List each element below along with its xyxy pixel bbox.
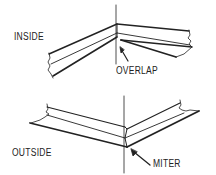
- miter-arrow: [131, 149, 150, 165]
- inside-left-flange-bottom-edge: [53, 37, 117, 76]
- inside-right-flange-top-edge: [117, 24, 189, 31]
- miter-callout-label: MITER: [153, 159, 181, 169]
- outside-right-flange-bottom-edge: [127, 111, 199, 147]
- overlap-callout-label: OVERLAP: [116, 66, 158, 76]
- outside-label: OUTSIDE: [12, 148, 52, 158]
- outside-left-flange-bottom-edge: [30, 123, 127, 147]
- outside-left-flange-top-edge: [47, 107, 125, 127]
- inside-label: INSIDE: [14, 32, 44, 42]
- outside-left-break-mark: [31, 104, 49, 123]
- outside-left-flange-mid-edge: [47, 115, 125, 138]
- inside-left-break-mark: [48, 53, 53, 78]
- overlap-arrow: [120, 47, 128, 61]
- inside-left-flange-top-edge: [49, 24, 117, 54]
- outside-right-break-mark: [179, 100, 199, 111]
